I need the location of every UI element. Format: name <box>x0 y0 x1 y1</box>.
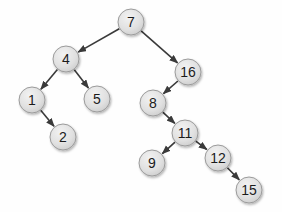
edge-7-to-16 <box>141 31 177 63</box>
tree-node-label-8: 8 <box>149 95 157 111</box>
tree-node-1: 1 <box>19 87 45 113</box>
edge-11-to-12 <box>196 141 207 149</box>
tree-diagram-svg: 741615821191215 <box>0 0 282 212</box>
edge-1-to-2 <box>41 110 54 126</box>
tree-node-label-7: 7 <box>127 14 135 30</box>
edge-7-to-4 <box>78 29 119 52</box>
tree-node-label-9: 9 <box>148 155 156 171</box>
tree-node-5: 5 <box>84 86 110 112</box>
tree-node-4: 4 <box>53 46 79 72</box>
tree-node-8: 8 <box>140 90 166 116</box>
tree-node-label-16: 16 <box>180 64 196 80</box>
edge-16-to-8 <box>164 81 178 94</box>
tree-node-16: 16 <box>175 59 201 85</box>
tree-node-label-11: 11 <box>178 125 193 141</box>
edge-8-to-11 <box>163 112 175 123</box>
tree-node-9: 9 <box>139 150 165 176</box>
tree-node-label-1: 1 <box>28 92 36 108</box>
tree-node-7: 7 <box>118 9 144 35</box>
edge-4-to-5 <box>74 70 88 88</box>
tree-node-2: 2 <box>50 124 76 150</box>
edge-4-to-1 <box>41 69 58 89</box>
edge-11-to-9 <box>162 142 175 154</box>
tree-diagram: 741615821191215 <box>0 0 282 212</box>
tree-node-label-2: 2 <box>59 129 67 145</box>
tree-node-label-4: 4 <box>62 51 70 67</box>
tree-node-12: 12 <box>205 145 231 171</box>
tree-node-label-5: 5 <box>93 91 101 107</box>
tree-node-11: 11 <box>172 120 198 146</box>
tree-node-label-12: 12 <box>210 150 226 166</box>
tree-node-label-15: 15 <box>241 182 257 198</box>
tree-node-15: 15 <box>236 177 262 203</box>
edge-12-to-15 <box>227 168 239 180</box>
nodes-layer: 741615821191215 <box>19 9 262 203</box>
